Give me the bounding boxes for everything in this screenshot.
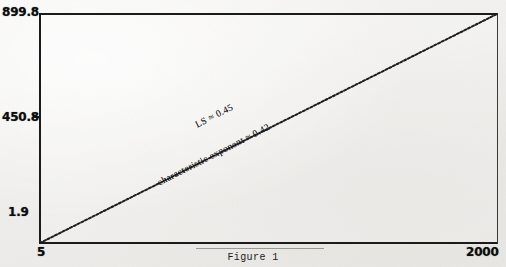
scanned-page: 899.8 450.8 1.9 5 2000 LS ≈ 0.45 charact… — [0, 0, 506, 267]
y-axis-label-min: 1.9 — [8, 205, 29, 219]
caption-rule — [196, 248, 324, 249]
figure-caption: Figure 1 — [0, 252, 506, 263]
y-axis-label-max: 899.8 — [2, 5, 39, 19]
y-axis-label-mid: 450.8 — [2, 110, 39, 124]
